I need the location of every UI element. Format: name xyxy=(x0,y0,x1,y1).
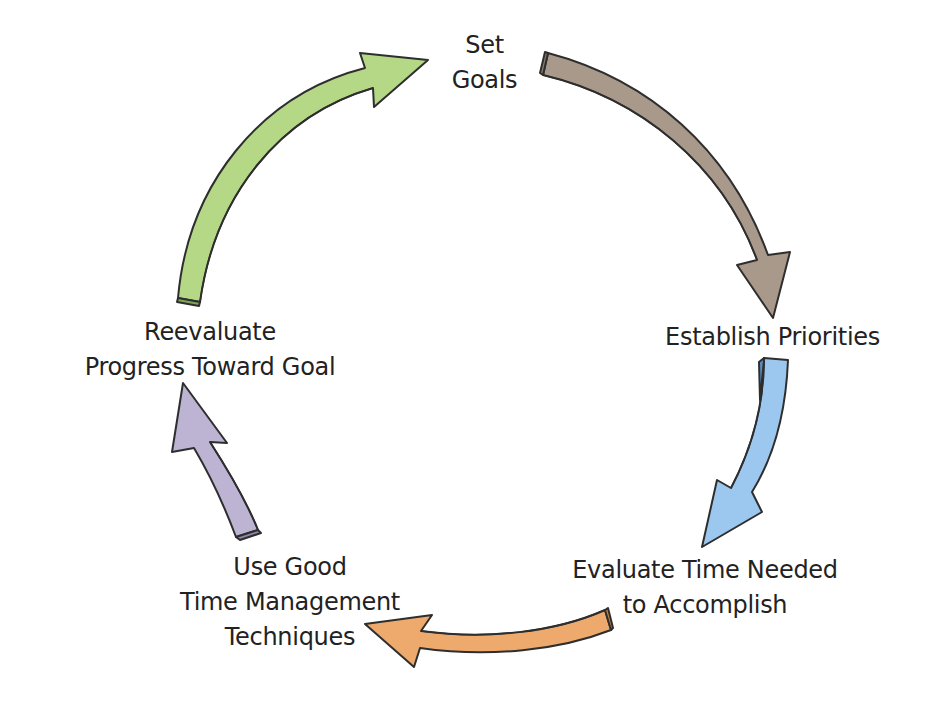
step-reevaluate-progress-line-1: Reevaluate xyxy=(55,315,365,350)
step-use-techniques-line-1: Use Good xyxy=(170,550,410,585)
step-establish-priorities-line-1: Establish Priorities xyxy=(640,320,905,355)
step-use-techniques: Use Good Time Management Techniques xyxy=(170,550,410,655)
arrow-techniques-to-reevaluate xyxy=(172,383,261,540)
step-use-techniques-line-2: Time Management xyxy=(170,585,410,620)
step-evaluate-time-line-2: to Accomplish xyxy=(555,588,855,623)
step-use-techniques-line-3: Techniques xyxy=(170,620,410,655)
step-set-goals-line-1: Set xyxy=(437,28,532,63)
step-evaluate-time: Evaluate Time Needed to Accomplish xyxy=(555,553,855,623)
step-reevaluate-progress-line-2: Progress Toward Goal xyxy=(55,350,365,385)
step-reevaluate-progress: Reevaluate Progress Toward Goal xyxy=(55,315,365,385)
arrow-priorities-to-evaluate xyxy=(702,358,788,547)
step-evaluate-time-line-1: Evaluate Time Needed xyxy=(555,553,855,588)
arrow-reevaluate-to-set-goals xyxy=(177,53,428,306)
step-set-goals: Set Goals xyxy=(437,28,532,98)
step-set-goals-line-2: Goals xyxy=(437,63,532,98)
step-establish-priorities: Establish Priorities xyxy=(640,320,905,355)
arrow-set-goals-to-priorities xyxy=(540,52,790,318)
